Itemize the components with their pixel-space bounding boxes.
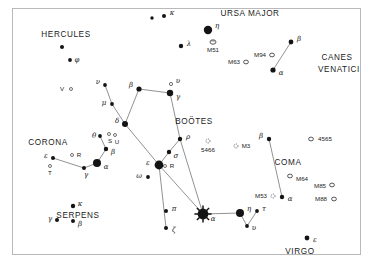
dso-m3 xyxy=(234,144,238,148)
dso-label-m64: M64 xyxy=(296,176,308,182)
constellation-name-coma: COMA xyxy=(275,159,302,167)
constellation-name-canes: CANES xyxy=(321,54,352,62)
star-cvn-alpha xyxy=(270,67,275,72)
star-boo-eta xyxy=(236,209,244,217)
constellation-name-serpens: SERPENS xyxy=(56,212,99,220)
star-label-ser-kappa: κ xyxy=(78,201,83,208)
star-ser-kappa xyxy=(71,204,75,208)
star-label-boo-nu: ν xyxy=(96,79,100,86)
star-boo-upsilon-top xyxy=(169,82,172,85)
star-boo-arcturus xyxy=(194,205,211,222)
star-uma-kappa xyxy=(162,14,166,18)
dso-label-m63: M63 xyxy=(228,59,240,65)
star-crb-gamma xyxy=(82,166,86,170)
star-crb-beta xyxy=(104,147,108,151)
dso-label-m88: M88 xyxy=(315,196,327,202)
constellation-name-virgo: VIRGO xyxy=(285,248,314,256)
star-disc xyxy=(146,175,150,179)
star-label-crb-gamma: γ xyxy=(84,172,88,179)
star-label-coma-alpha: α xyxy=(288,196,293,203)
variable-star-crb-U xyxy=(114,134,117,137)
star-label-boo-upsilon: υ xyxy=(252,225,256,232)
dso-label-m3: M3 xyxy=(242,143,251,149)
star-label-coma-beta: β xyxy=(259,133,263,140)
dso-m53 xyxy=(271,194,275,198)
variable-star-crb-S xyxy=(108,133,111,136)
dso-label-m53: M53 xyxy=(255,193,267,199)
dso-m88 xyxy=(332,197,337,201)
star-her-anon xyxy=(60,45,64,49)
star-disc xyxy=(155,161,164,170)
star-boo-rho xyxy=(178,137,182,141)
dso-m63 xyxy=(244,60,249,64)
star-disc xyxy=(289,40,294,45)
star-label-boo-delta: δ xyxy=(115,118,119,125)
constellation-name-hercules: HERCULES xyxy=(41,31,90,39)
dso-ngc5466 xyxy=(206,139,210,143)
constellation-line xyxy=(159,165,203,214)
star-label-crb-theta: θ xyxy=(92,133,96,140)
star-open-circle xyxy=(169,82,172,85)
constellation-line xyxy=(125,89,139,124)
star-disc xyxy=(110,102,114,106)
constellation-name-bo-tes: BOÖTES xyxy=(175,118,213,126)
star-disc xyxy=(204,26,212,34)
star-boo-tau xyxy=(255,209,259,213)
star-disc xyxy=(51,156,55,160)
dso-glyph xyxy=(206,139,210,143)
star-boo-epsilon xyxy=(155,161,164,170)
dso-glyph xyxy=(244,60,249,64)
star-label-boo-zeta: ζ xyxy=(172,227,176,234)
star-boo-upsilon xyxy=(245,224,249,228)
star-label-boo-upsilon-top: υ xyxy=(176,78,180,85)
star-boo-nu xyxy=(103,83,107,87)
dso-glyph xyxy=(332,197,337,201)
star-disc xyxy=(164,209,168,213)
star-boo-omega xyxy=(146,175,150,179)
star-disc xyxy=(305,236,310,241)
star-uma-lambda xyxy=(179,44,183,48)
constellation-line xyxy=(269,139,282,197)
star-disc xyxy=(68,58,72,62)
star-label-crb-beta: β xyxy=(111,149,115,156)
dso-m85 xyxy=(330,183,335,187)
star-disc xyxy=(164,226,168,230)
star-boo-delta xyxy=(122,121,128,127)
constellation-line xyxy=(180,139,203,214)
star-crb-epsilon xyxy=(51,156,55,160)
constellation-line xyxy=(169,139,180,152)
star-uma-anon1 xyxy=(150,16,153,19)
star-disc xyxy=(167,90,173,96)
star-disc xyxy=(60,45,64,49)
variable-label-crb-R: R xyxy=(77,152,81,158)
star-label-crb-alpha: α xyxy=(104,164,109,171)
star-disc xyxy=(255,209,259,213)
star-chart: κηλβαφνμβγδρσεωπζαητυυαβθγεκγββαεVRTSURM… xyxy=(0,0,374,267)
star-boo-beta xyxy=(136,86,141,91)
constellation-name-corona: CORONA xyxy=(28,139,68,147)
dso-label-m94: M94 xyxy=(254,52,266,58)
star-boo-gamma xyxy=(167,90,173,96)
star-disc xyxy=(104,147,108,151)
constellation-line xyxy=(273,42,291,70)
constellation-name-venatici: VENATICI xyxy=(318,66,360,74)
star-label-ser-beta: β xyxy=(78,221,82,228)
variable-star-her-V xyxy=(70,88,73,91)
dso-m64 xyxy=(288,174,293,178)
constellation-line xyxy=(159,165,166,228)
constellation-line xyxy=(125,124,159,165)
star-disc xyxy=(93,159,101,167)
star-crb-alpha xyxy=(93,159,101,167)
star-disc xyxy=(71,204,75,208)
star-label-cvn-beta: β xyxy=(297,36,301,43)
star-label-boo-eta: η xyxy=(247,206,251,213)
star-vir-epsilon xyxy=(305,236,310,241)
star-label-boo-beta: β xyxy=(129,82,133,89)
dso-ngc4565 xyxy=(309,137,314,141)
star-label-vir-epsilon: ε xyxy=(313,237,317,244)
star-label-boo-sigma: σ xyxy=(174,153,179,160)
star-disc xyxy=(167,150,171,154)
star-disc xyxy=(98,134,102,138)
variable-star-crb-R xyxy=(71,154,74,157)
star-cvn-beta xyxy=(289,40,294,45)
